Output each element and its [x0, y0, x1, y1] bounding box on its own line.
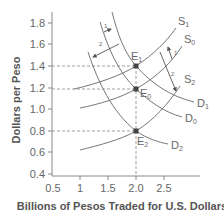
- y-tick-0.8: 0.8: [30, 125, 45, 137]
- y-tick-1.2: 1.2: [30, 82, 45, 94]
- demand-curves: [88, 12, 194, 144]
- arrow-demand-decrease: [93, 44, 119, 57]
- x-tick-1.5: 1.5: [100, 182, 115, 194]
- x-tick-0.5: 0.5: [45, 182, 60, 194]
- arrow-label-2-supply: 2: [171, 71, 175, 77]
- point-e1: [134, 64, 139, 69]
- point-e2: [134, 129, 139, 134]
- y-tick-1.6: 1.6: [30, 38, 45, 50]
- arrow-demand-increase: [104, 29, 111, 32]
- curve-s1: [74, 28, 176, 89]
- arrow-label-2: 2: [99, 41, 103, 47]
- y-tick-1.0: 1.0: [30, 103, 45, 115]
- arrow-supply-decrease: [168, 47, 172, 59]
- x-tick-labels: 0.5 1 1.5 2.0 2.5: [45, 182, 171, 194]
- x-tick-2.0: 2.0: [128, 182, 143, 194]
- point-e0: [134, 87, 139, 92]
- label-s2: S2: [184, 73, 195, 86]
- y-tick-labels: 1.8 1.6 1.4 1.2 1.0 0.8 0.6 0.4: [30, 17, 45, 180]
- label-d1: D1: [197, 97, 209, 110]
- reference-lines: [52, 66, 136, 176]
- y-tick-0.4: 0.4: [30, 168, 45, 180]
- label-s0: S0: [184, 33, 195, 46]
- x-axis-title: Billions of Pesos Traded for U.S. Dollar…: [17, 200, 224, 212]
- label-e1: E1: [131, 50, 142, 63]
- arrow-label-1: 1: [104, 23, 108, 29]
- y-axis-title: Dollars per Peso: [10, 56, 22, 143]
- label-e0: E0: [140, 87, 151, 100]
- curve-s2: [80, 86, 180, 150]
- x-tick-2.5: 2.5: [156, 182, 171, 194]
- label-d0: D0: [185, 112, 197, 125]
- y-tick-1.4: 1.4: [30, 60, 45, 72]
- label-s1: S1: [178, 15, 189, 28]
- y-tick-1.8: 1.8: [30, 17, 45, 29]
- y-tick-0.6: 0.6: [30, 146, 45, 158]
- exchange-rate-chart: 1.8 1.6 1.4 1.2 1.0 0.8 0.6 0.4 0.5 1 1.…: [0, 0, 224, 213]
- x-tick-1: 1: [77, 182, 83, 194]
- label-d2: D2: [171, 139, 183, 152]
